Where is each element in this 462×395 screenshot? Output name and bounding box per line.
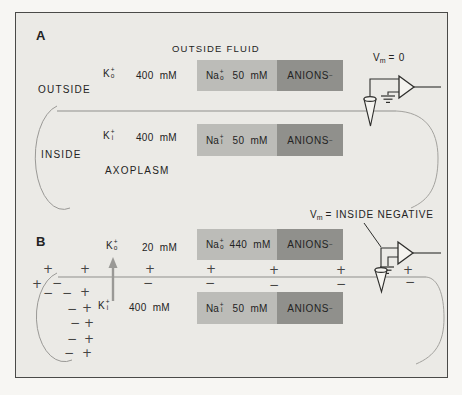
vm-callout-line	[364, 223, 381, 247]
anions-outside-box-a: ANIONS−	[277, 60, 343, 91]
axon-membrane-a	[35, 106, 438, 209]
k-outside-value-a: 400 mM	[136, 70, 177, 81]
k-inside-ion-b: K +i	[98, 300, 109, 311]
recording-circuit-b	[364, 223, 441, 292]
na-inside-ion-a: Na +i	[206, 135, 224, 146]
outside-label: OUTSIDE	[38, 84, 91, 95]
k-inside-value-a: 400 mM	[136, 132, 177, 143]
inside-label: INSIDE	[41, 149, 82, 160]
na-outside-ion-a: Na +o	[206, 70, 224, 81]
outside-fluid-title: OUTSIDE FLUID	[172, 43, 260, 54]
na-inside-value-b: 50 mM	[233, 303, 268, 314]
panel-a-label: A	[36, 28, 45, 43]
amplifier-icon-a	[399, 76, 414, 98]
na-outside-box-a: Na +o 50 mM	[197, 60, 277, 91]
amplifier-icon-b	[398, 242, 413, 264]
na-inside-value-a: 50 mM	[233, 135, 268, 146]
na-inside-box-b: Na +i 50 mM	[197, 292, 277, 324]
axoplasm-label: AXOPLASM	[105, 165, 170, 176]
na-outside-value-a: 50 mM	[233, 70, 268, 81]
na-outside-value-b: 440 mM	[230, 239, 271, 250]
na-inside-ion-b: Na +i	[206, 303, 224, 314]
vm-label-a: Vm= 0	[373, 52, 405, 64]
k-outside-value-b: 20 mM	[142, 242, 177, 253]
figure: A OUTSIDE FLUID OUTSIDE INSIDE AXOPLASM …	[0, 0, 462, 395]
anions-inside-box-b: ANIONS−	[277, 292, 343, 324]
panel-b-label: B	[36, 234, 45, 249]
anions-inside-box-a: ANIONS−	[277, 124, 343, 156]
na-outside-box-b: Na +o 440 mM	[197, 229, 277, 260]
k-outside-ion-a: K +o	[103, 68, 114, 79]
k-efflux-arrow	[109, 257, 118, 301]
electrode-wire-a	[370, 79, 399, 96]
na-inside-box-a: Na +i 50 mM	[197, 124, 277, 156]
k-outside-ion-b: K +o	[106, 240, 117, 251]
vm-label-b: Vm= INSIDE NEGATIVE	[310, 209, 434, 221]
reference-wire-b	[388, 257, 398, 266]
recording-circuit-a	[364, 76, 441, 126]
microelectrode-icon-b	[375, 268, 387, 292]
k-inside-ion-a: K +i	[103, 130, 114, 141]
na-outside-ion-b: Na +o	[206, 239, 224, 250]
k-inside-value-b: 400 mM	[129, 302, 170, 313]
anions-outside-box-b: ANIONS−	[277, 229, 343, 260]
ground-icon	[381, 96, 395, 102]
reference-wire-a	[388, 92, 399, 95]
